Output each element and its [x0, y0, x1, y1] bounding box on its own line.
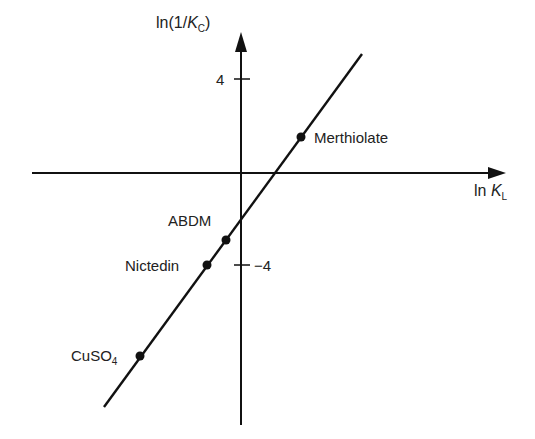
x-axis-label: ln KL [474, 183, 507, 199]
point-cuso4 [136, 352, 145, 361]
y-axis-arrow-icon [235, 32, 247, 52]
label-merthiolate: Merthiolate [314, 130, 388, 145]
x-axis-arrow-icon [488, 167, 506, 179]
label-abdm: ABDM [168, 213, 211, 228]
label-nictedin: Nictedin [125, 258, 179, 273]
label-cuso4: CuSO4 [71, 348, 117, 363]
point-merthiolate [297, 133, 306, 142]
chart-canvas [0, 0, 535, 439]
y-axis-label: ln(1/KC) [156, 15, 210, 31]
y-tick-label-4: 4 [216, 72, 224, 87]
point-abdm [222, 236, 231, 245]
point-nictedin [203, 261, 212, 270]
y-tick-label-neg4: −4 [254, 258, 271, 273]
